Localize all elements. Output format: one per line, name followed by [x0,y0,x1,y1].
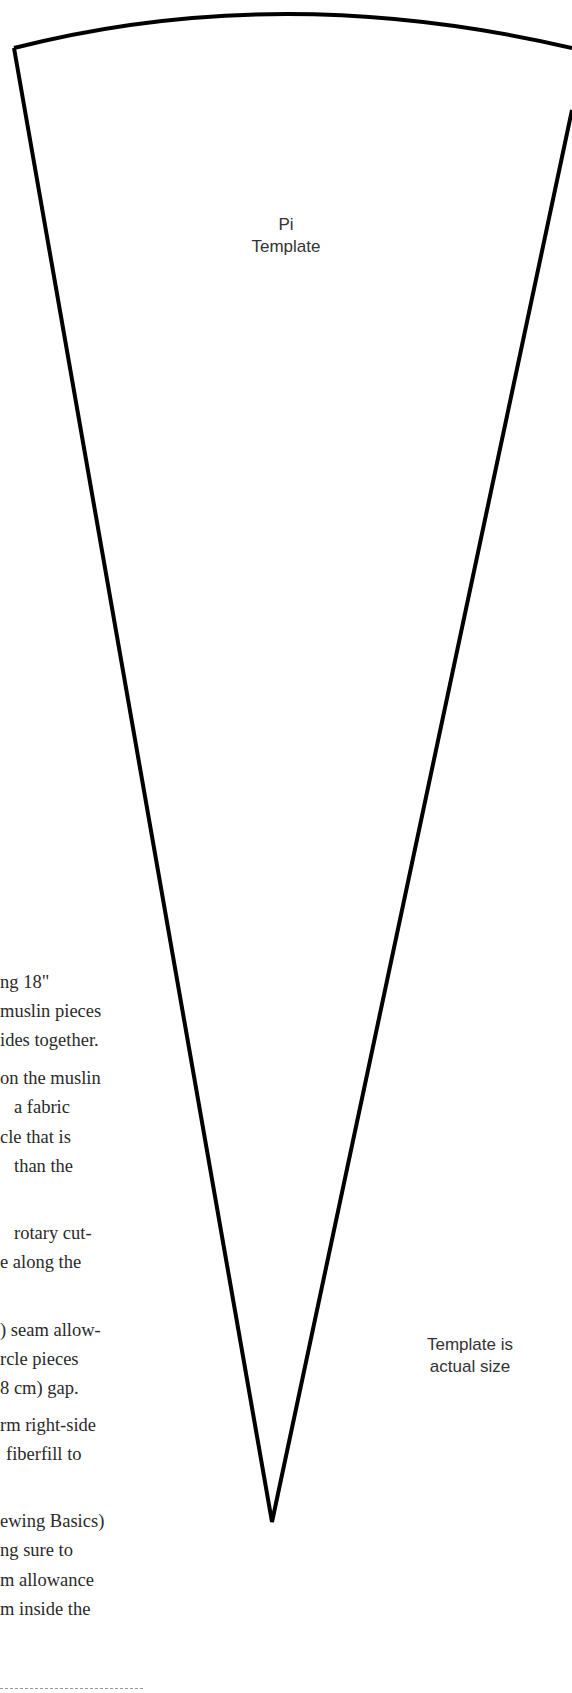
dashed-divider [0,1688,143,1689]
pi-template-title: Pi Template [236,214,336,258]
instruction-line: m inside the [0,1597,90,1621]
instruction-line: e along the [0,1250,81,1274]
instruction-line: on the muslin [0,1066,101,1090]
instruction-line: cle that is [0,1125,71,1149]
instruction-line: ng 18" [0,970,49,994]
instruction-line: fiberfill to [6,1442,82,1466]
instruction-line: muslin pieces [0,999,101,1023]
actual-size-note: Template is actual size [400,1334,540,1378]
pi-template-title-line1: Pi [236,214,336,236]
instruction-line: rotary cut- [14,1221,92,1245]
instruction-line: than the [14,1154,73,1178]
actual-size-note-line1: Template is [400,1334,540,1356]
instruction-line: ewing Basics) [0,1509,104,1533]
instruction-line: ) seam allow- [0,1318,101,1342]
instruction-line: rcle pieces [0,1347,79,1371]
pi-template-title-line2: Template [236,236,336,258]
instruction-line: a fabric [14,1095,70,1119]
instruction-line: 8 cm) gap. [0,1376,79,1400]
instruction-line: m allowance [0,1568,94,1592]
instruction-line: ides together. [0,1028,99,1052]
actual-size-note-line2: actual size [400,1356,540,1378]
instruction-line: ng sure to [0,1538,73,1562]
instruction-line: rm right-side [0,1413,96,1437]
